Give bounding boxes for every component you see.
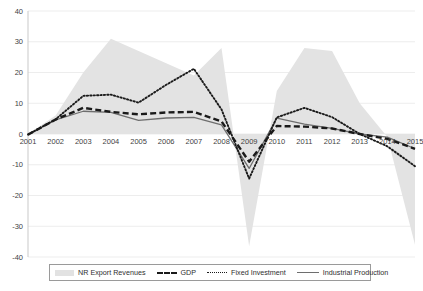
x-axis-tick-labels: 2001200220032004200520062007200820092010…: [20, 137, 423, 146]
x-tick-label: 2003: [75, 137, 92, 146]
y-axis-tick-labels: 403020100-10-20-30-40: [12, 7, 23, 262]
dotted-line-swatch-icon: [207, 272, 227, 273]
y-tick-label: 10: [15, 99, 23, 108]
solid-line-swatch-icon: [297, 272, 319, 273]
x-tick-label: 2006: [158, 137, 175, 146]
y-tick-label: -20: [12, 191, 23, 200]
x-tick-label: 2007: [186, 137, 203, 146]
x-tick-label: 2008: [213, 137, 230, 146]
legend-item-fixed-investment: Fixed Investment: [207, 268, 286, 277]
legend-item-nr-export-revenues: NR Export Revenues: [55, 268, 146, 277]
x-tick-label: 2004: [103, 137, 120, 146]
x-tick-label: 2002: [47, 137, 64, 146]
y-tick-label: -30: [12, 222, 23, 231]
y-tick-label: 30: [15, 37, 23, 46]
y-tick-label: 20: [15, 68, 23, 77]
x-tick-label: 2015: [407, 137, 423, 146]
y-tick-label: -10: [12, 160, 23, 169]
legend-item-industrial-production: Industrial Production: [297, 268, 389, 277]
x-tick-label: 2005: [130, 137, 147, 146]
area-swatch-icon: [55, 270, 74, 276]
x-tick-label: 2001: [20, 137, 37, 146]
chart-legend: NR Export Revenues GDP Fixed Investment …: [49, 264, 371, 281]
x-tick-label: 2011: [296, 137, 312, 146]
line-area-chart: 403020100-10-20-30-40 200120022003200420…: [0, 0, 423, 291]
y-tick-label: -40: [12, 253, 23, 262]
y-tick-label: 40: [15, 7, 23, 16]
legend-item-gdp: GDP: [157, 268, 197, 277]
x-tick-label: 2014: [379, 137, 396, 146]
x-tick-label: 2013: [351, 137, 368, 146]
legend-label: Fixed Investment: [231, 268, 286, 277]
legend-label: Industrial Production: [323, 268, 389, 277]
dashed-line-swatch-icon: [157, 272, 177, 274]
x-tick-label: 2010: [268, 137, 285, 146]
x-tick-label: 2009: [241, 137, 258, 146]
x-tick-label: 2012: [324, 137, 341, 146]
legend-label: NR Export Revenues: [78, 268, 146, 277]
chart-container: 403020100-10-20-30-40 200120022003200420…: [0, 0, 423, 291]
legend-label: GDP: [181, 268, 197, 277]
